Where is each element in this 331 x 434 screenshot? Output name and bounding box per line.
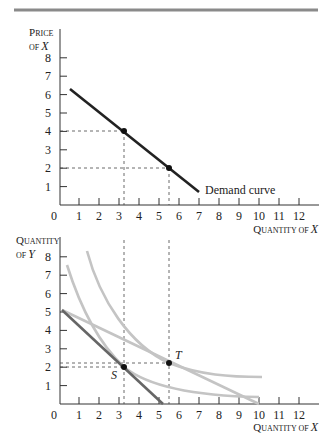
x-tick-label: 6	[176, 408, 182, 422]
budget-line-original	[62, 310, 163, 404]
x-tick-label: 10	[253, 408, 265, 422]
dashed-guides	[60, 131, 169, 205]
x-tick-label: 5	[156, 408, 162, 422]
x-tick-label: 2	[96, 209, 102, 223]
y-tick-label: 4	[45, 124, 51, 138]
figure: PRICE OF X 12345678 123456789101112 0 QU…	[0, 0, 331, 434]
x-tick-label: 3	[116, 209, 122, 223]
y-tick-label: 6	[45, 287, 51, 301]
x-tick-label: 11	[273, 209, 285, 223]
y-tick-label: 6	[45, 88, 51, 102]
y-tick-label: 3	[45, 143, 51, 157]
demand-chart: PRICE OF X 12345678 123456789101112 0 QU…	[29, 26, 319, 236]
x-tick-label: 11	[273, 408, 285, 422]
x-tick-label: 1	[76, 209, 82, 223]
y-tick-label: 2	[45, 161, 51, 175]
x-ticks: 123456789101112	[76, 397, 305, 422]
y-tick-label: 7	[45, 268, 51, 282]
x-tick-label: 2	[96, 408, 102, 422]
y-tick-label: 8	[45, 51, 51, 65]
x-ticks: 123456789101112	[76, 198, 305, 223]
x-tick-label: 4	[136, 408, 142, 422]
y-axis-label-line1: QUANTITY	[16, 234, 60, 246]
y-tick-label: 8	[45, 250, 51, 264]
x-tick-label: 4	[136, 209, 142, 223]
x-tick-label: 9	[236, 408, 242, 422]
x-tick-label: 3	[116, 408, 122, 422]
x-tick-label: 5	[156, 209, 162, 223]
x-tick-label: 7	[196, 209, 202, 223]
y-ticks: 12345678	[45, 51, 67, 194]
origin-label: 0	[51, 209, 57, 223]
point-s	[121, 364, 127, 370]
x-tick-label: 12	[293, 209, 305, 223]
x-axis-label: QUANTITY OF X	[253, 222, 318, 236]
point-t	[166, 360, 172, 366]
point-price-2	[166, 165, 172, 171]
point-s-label: S	[111, 368, 117, 382]
x-axis-label: QUANTITY OF X	[253, 420, 318, 434]
y-tick-label: 7	[45, 69, 51, 83]
x-tick-label: 8	[216, 209, 222, 223]
x-tick-label: 7	[196, 408, 202, 422]
y-tick-label: 4	[45, 323, 51, 337]
x-tick-label: 8	[216, 408, 222, 422]
demand-curve-label: Demand curve	[205, 183, 275, 197]
point-price-4	[121, 128, 127, 134]
y-tick-label: 1	[45, 379, 51, 393]
y-axis-label-line1: PRICE	[29, 26, 53, 38]
y-tick-label: 3	[45, 342, 51, 356]
x-tick-label: 12	[293, 408, 305, 422]
y-tick-label: 2	[45, 360, 51, 374]
y-tick-label: 5	[45, 106, 51, 120]
demand-curve-line	[70, 89, 199, 192]
y-tick-label: 5	[45, 305, 51, 319]
origin-label: 0	[51, 408, 57, 422]
x-tick-label: 10	[253, 209, 265, 223]
y-tick-label: 1	[45, 180, 51, 194]
x-tick-label: 6	[176, 209, 182, 223]
point-t-label: T	[175, 348, 183, 362]
indifference-chart: QUANTITY OF Y 12345678 123456789101112 0…	[16, 234, 319, 434]
x-tick-label: 1	[76, 408, 82, 422]
y-ticks: 12345678	[45, 250, 67, 393]
x-tick-label: 9	[236, 209, 242, 223]
y-axis-label-line2: OF Y	[16, 247, 36, 261]
